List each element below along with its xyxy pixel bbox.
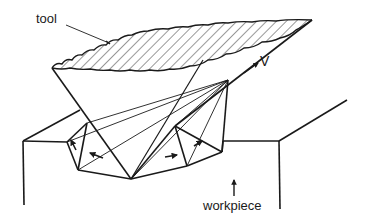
tool-workpiece-diagram	[0, 0, 372, 222]
velocity-label: V	[260, 54, 269, 68]
tool-label: tool	[36, 12, 57, 25]
workpiece-label: workpiece	[203, 199, 262, 212]
left-facet	[67, 123, 131, 179]
right-workpiece	[222, 100, 347, 209]
flow-arrow-right-1	[165, 155, 177, 157]
left-workpiece	[23, 110, 80, 205]
right-facet	[131, 126, 222, 179]
flow-arrow-right-2	[194, 141, 202, 146]
tool-hatched-body	[40, 10, 330, 80]
tool-leader-line	[66, 25, 109, 43]
flow-arrow-left-1	[71, 140, 76, 150]
tool-rake-rays	[67, 80, 228, 179]
velocity-arrow	[244, 63, 258, 73]
flow-arrow-left-2	[90, 153, 103, 158]
